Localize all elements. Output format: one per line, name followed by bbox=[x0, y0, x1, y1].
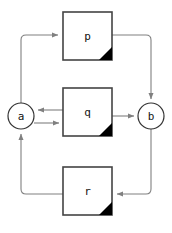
node-q-label: q bbox=[84, 106, 91, 119]
node-p-label: p bbox=[84, 30, 91, 43]
diagram-canvas: p q r a b bbox=[0, 0, 172, 233]
edge-p-to-b bbox=[112, 35, 151, 99]
node-r-label: r bbox=[84, 185, 91, 198]
edge-a-to-p bbox=[21, 35, 58, 103]
edge-b-to-r bbox=[117, 129, 151, 194]
node-a[interactable]: a bbox=[8, 103, 34, 129]
diagram-svg: p q r a b bbox=[0, 0, 172, 233]
node-p[interactable]: p bbox=[63, 12, 112, 60]
node-b-label: b bbox=[148, 110, 155, 123]
node-r[interactable]: r bbox=[63, 167, 112, 215]
node-q[interactable]: q bbox=[63, 88, 112, 136]
node-a-label: a bbox=[18, 110, 25, 123]
node-b[interactable]: b bbox=[138, 103, 164, 129]
edge-r-to-a bbox=[21, 134, 63, 194]
